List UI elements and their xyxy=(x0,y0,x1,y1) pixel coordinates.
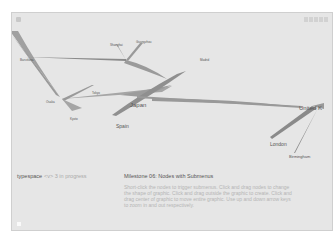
app-title: typespace<v> 3 in progress xyxy=(17,173,87,179)
app-subtitle: <v> 3 in progress xyxy=(44,173,87,179)
node-label-japan[interactable]: Japan xyxy=(130,102,146,108)
edge xyxy=(12,31,60,97)
edge xyxy=(24,57,126,61)
graph-canvas[interactable]: Japan Spain United K London Birmingham S… xyxy=(12,13,333,173)
node-label[interactable]: Madrid xyxy=(200,58,210,62)
milestone-title: Milestone 06: Nodes with Submenus xyxy=(124,173,296,179)
node-label[interactable]: Tokyo xyxy=(92,91,100,95)
node-label[interactable]: Shanghai xyxy=(110,43,123,47)
edge xyxy=(62,99,82,111)
node-label[interactable]: Guangzhou xyxy=(136,40,152,44)
milestone-description: Short-click the nodes to trigger submenu… xyxy=(124,184,296,208)
node-label-spain[interactable]: Spain xyxy=(116,123,129,129)
node-label-united-kingdom[interactable]: United K xyxy=(299,105,322,111)
node-label[interactable]: Osaka xyxy=(46,100,55,104)
edge xyxy=(126,43,143,61)
milestone-section: Milestone 06: Nodes with Submenus Short-… xyxy=(124,173,296,208)
edge xyxy=(12,35,60,97)
edge xyxy=(124,60,167,79)
footer-button[interactable] xyxy=(17,222,21,226)
edge xyxy=(152,98,302,107)
node-label[interactable]: Kyoto xyxy=(70,117,78,121)
node-label[interactable]: Barcelona xyxy=(20,58,34,62)
app-title-text: typespace xyxy=(17,173,42,179)
info-panel: typespace<v> 3 in progress Milestone 06:… xyxy=(12,173,333,228)
app-window: Japan Spain United K London Birmingham S… xyxy=(11,12,333,231)
node-label-london[interactable]: London xyxy=(270,141,287,147)
edge xyxy=(62,85,94,101)
node-label-birmingham[interactable]: Birmingham xyxy=(289,154,311,159)
